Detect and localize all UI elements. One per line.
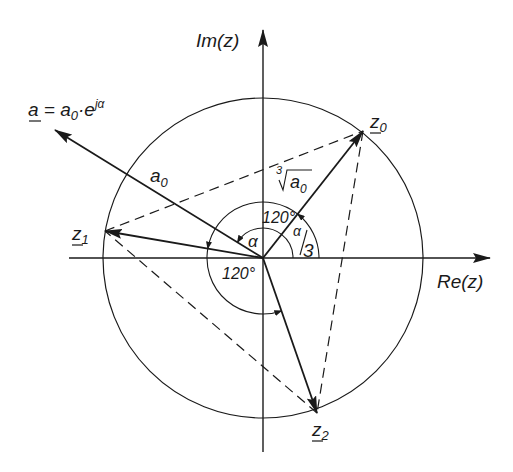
svg-text:a = a0·ejα: a = a0·ejα — [28, 97, 106, 123]
z0-label: z0 — [369, 111, 388, 135]
re-axis-label: Re(z) — [437, 271, 483, 292]
magnitude-a0-label: a0 — [150, 165, 169, 190]
cube-root-label: 3 a0 — [276, 164, 312, 196]
vector-a-label: a = a0·ejα — [28, 97, 106, 123]
vector-z0 — [263, 131, 363, 258]
svg-text:z0: z0 — [369, 111, 388, 135]
svg-text:3: 3 — [303, 240, 314, 261]
im-axis-label: Im(z) — [196, 30, 239, 51]
svg-text:a0: a0 — [290, 172, 307, 196]
z1-label: z1 — [71, 223, 89, 247]
angle-120-lower-label: 120° — [222, 265, 256, 282]
z2-label: z2 — [311, 419, 330, 443]
complex-plane-diagram: Im(z) Re(z) a = a0·ejα a0 3 a0 z0 z1 z2 … — [0, 0, 513, 472]
arc-alpha — [237, 228, 281, 242]
arc-alpha-third — [282, 234, 294, 258]
alpha-angle-label: α — [248, 232, 259, 251]
svg-text:3: 3 — [276, 164, 283, 176]
svg-text:z2: z2 — [311, 419, 330, 443]
svg-text:z1: z1 — [71, 223, 89, 247]
vector-z1 — [105, 231, 263, 258]
angle-120-upper-label: 120° — [262, 209, 296, 226]
